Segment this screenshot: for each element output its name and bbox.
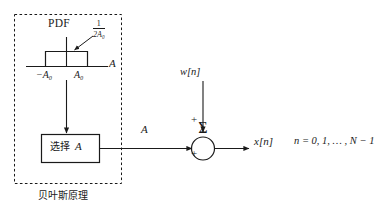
- pdf-height-annotation: 1 2A₀: [93, 19, 105, 39]
- noise-signal-label: w[n]: [180, 67, 200, 78]
- sample-index-range-label: n = 0, 1, … , N − 1: [294, 136, 374, 147]
- pdf-tick-label-right: A₀: [74, 70, 84, 80]
- selector-block-label: 选择A: [50, 141, 82, 152]
- figure-canvas: PDF 1 2A₀ A −A₀ A₀ 选择A 贝叶斯原理 A w[n] + + …: [0, 0, 386, 212]
- prior-block-caption: 贝叶斯原理: [38, 191, 88, 201]
- pdf-height-denominator: 2A₀: [93, 29, 105, 39]
- output-signal-label: x[n]: [254, 136, 273, 147]
- pdf-axis-label: A: [109, 58, 116, 69]
- pdf-title: PDF: [48, 18, 70, 30]
- selector-label-variable: A: [70, 140, 82, 152]
- prior-block-dashed-border: [15, 15, 122, 184]
- pdf-height-numerator: 1: [93, 19, 105, 29]
- diagram-vector-layer: [0, 0, 386, 212]
- summer-plus-sign-top: +: [191, 114, 197, 125]
- amplitude-signal-label: A: [141, 124, 148, 135]
- selector-label-text: 选择: [50, 141, 70, 152]
- pdf-height-leader-arrow: [75, 36, 94, 50]
- summation-sigma-icon: Σ: [198, 120, 207, 136]
- pdf-tick-label-left: −A₀: [36, 70, 52, 80]
- summer-plus-sign-bottom: +: [191, 148, 197, 159]
